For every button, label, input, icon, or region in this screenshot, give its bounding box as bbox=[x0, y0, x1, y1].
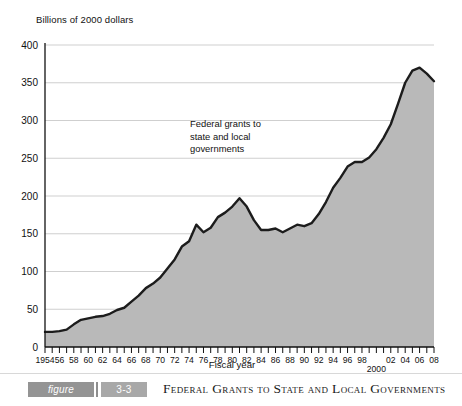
x-axis-tick-label: 90 bbox=[300, 355, 310, 365]
caption-figure-chip: figure bbox=[28, 382, 94, 397]
x-axis-tick-label: 66 bbox=[127, 355, 137, 365]
annotation-line: governments bbox=[190, 143, 245, 154]
y-axis-labels-group: 400350300250200150100500 bbox=[21, 40, 38, 353]
x-axis-tick-label: 08 bbox=[429, 355, 439, 365]
area-fill bbox=[45, 68, 434, 347]
x-axis-title: Fiscal year bbox=[209, 359, 256, 370]
x-axis-tick-label: 56 bbox=[55, 355, 65, 365]
y-axis-tick-label: 150 bbox=[21, 228, 38, 239]
x-axis-tick-label: 68 bbox=[141, 355, 151, 365]
x-axis-tick-label: 94 bbox=[328, 355, 338, 365]
caption-chip-divider bbox=[96, 382, 98, 397]
caption-number-chip: 3-3 bbox=[101, 382, 147, 397]
y-axis-tick-label: 50 bbox=[27, 304, 39, 315]
y-axis-tick-label: 250 bbox=[21, 153, 38, 164]
y-axis-tick-label: 400 bbox=[21, 40, 38, 51]
series-annotation: Federal grants tostate and localgovernme… bbox=[190, 118, 261, 154]
x-axis-tick-label: 04 bbox=[400, 355, 410, 365]
y-axis-tick-label: 100 bbox=[21, 266, 38, 277]
x-axis-tick-label: 86 bbox=[271, 355, 281, 365]
x-axis-tick-label: 98 bbox=[357, 355, 367, 365]
x-axis-tick-label: 06 bbox=[415, 355, 425, 365]
y-axis-tick-label: 300 bbox=[21, 115, 38, 126]
x-axis-tick-label: 64 bbox=[112, 355, 122, 365]
x-axis-tick-label: 02 bbox=[386, 355, 396, 365]
area-series-group bbox=[45, 68, 434, 347]
x-axis-tick-label: 96 bbox=[343, 355, 353, 365]
x-axis-tick-label: 92 bbox=[314, 355, 324, 365]
x-axis-tick-label: 2000 bbox=[367, 364, 386, 372]
chart-area: Billions of 2000 dollars 400350300250200… bbox=[0, 0, 462, 372]
figure-container: Billions of 2000 dollars 400350300250200… bbox=[0, 0, 462, 406]
x-axis-tick-label: 62 bbox=[98, 355, 108, 365]
y-axis-tick-label: 350 bbox=[21, 77, 38, 88]
x-axis-ticks-group bbox=[45, 347, 434, 353]
y-axis-tick-label: 200 bbox=[21, 191, 38, 202]
x-axis-tick-label: 84 bbox=[256, 355, 266, 365]
area-chart-plot: 400350300250200150100500 195456586062646… bbox=[0, 0, 462, 372]
x-axis-tick-label: 60 bbox=[83, 355, 93, 365]
x-axis-tick-label: 1954 bbox=[35, 355, 54, 365]
annotation-line: state and local bbox=[190, 131, 250, 142]
x-axis-tick-label: 88 bbox=[285, 355, 295, 365]
caption-title: Federal Grants to State and Local Govern… bbox=[163, 381, 445, 397]
x-axis-tick-label: 76 bbox=[199, 355, 209, 365]
figure-caption-bar: figure 3-3 Federal Grants to State and L… bbox=[0, 373, 462, 406]
x-axis-tick-label: 72 bbox=[170, 355, 180, 365]
x-axis-tick-label: 58 bbox=[69, 355, 79, 365]
x-axis-tick-label: 74 bbox=[184, 355, 194, 365]
caption-divider bbox=[0, 373, 462, 374]
x-axis-tick-label: 70 bbox=[155, 355, 165, 365]
y-axis-tick-label: 0 bbox=[32, 342, 38, 353]
annotation-line: Federal grants to bbox=[190, 118, 261, 129]
